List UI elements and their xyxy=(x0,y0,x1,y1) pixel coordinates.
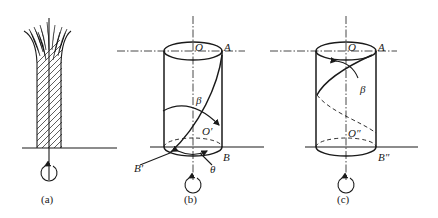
rotation-icon xyxy=(338,178,354,193)
hatch-line xyxy=(30,66,70,106)
hatch-line xyxy=(30,72,70,112)
beta-arc-b xyxy=(163,106,219,125)
hatch-line xyxy=(30,54,70,94)
hatch-line xyxy=(30,132,70,172)
label-beta: β xyxy=(359,83,366,95)
panel-c: O A β O″ B″ (c) xyxy=(270,16,418,206)
hatch-line xyxy=(30,126,70,166)
hatch-line xyxy=(30,78,70,118)
label-B: B xyxy=(223,151,230,163)
hatch-line xyxy=(30,150,70,190)
hatch-line xyxy=(30,96,70,136)
helix-back-c xyxy=(317,95,376,133)
label-A: A xyxy=(377,41,385,53)
hatch-line xyxy=(30,138,70,178)
panel-b: O A β O′ B B′ θ (b) xyxy=(117,16,264,206)
label-theta: θ xyxy=(210,163,216,175)
theta-arc-b xyxy=(178,151,207,155)
caption-c: (c) xyxy=(337,193,350,206)
torsion-diagram: (a) O A β O′ B B′ θ (b) xyxy=(0,0,438,218)
label-beta: β xyxy=(195,94,202,106)
hatch-line xyxy=(30,42,70,82)
label-B-prime: B′ xyxy=(134,162,144,174)
hatch-line xyxy=(30,90,70,130)
caption-b: (b) xyxy=(184,193,197,206)
label-O-double-prime: O″ xyxy=(348,127,361,139)
hatch-line xyxy=(30,108,70,148)
leader-bprime xyxy=(140,153,170,165)
label-A: A xyxy=(223,41,231,53)
label-O-prime: O′ xyxy=(202,125,213,137)
fiber-bundle xyxy=(24,22,71,63)
caption-a: (a) xyxy=(41,193,54,206)
label-O: O xyxy=(195,41,203,53)
label-B-double-prime: B″ xyxy=(378,151,390,163)
hatch-line xyxy=(30,120,70,160)
panel-a: (a) xyxy=(22,18,117,208)
hatch-line xyxy=(30,84,70,124)
hatch-line xyxy=(30,156,70,196)
label-O: O xyxy=(348,41,356,53)
hatch-line xyxy=(30,102,70,142)
hatch-line xyxy=(30,144,70,184)
hatch-line xyxy=(30,60,70,100)
rotation-icon xyxy=(185,178,201,193)
